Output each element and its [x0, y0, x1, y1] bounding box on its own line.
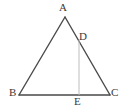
vertex-label-b: B — [9, 87, 16, 98]
segment-ab — [19, 17, 65, 95]
vertex-label-a: A — [59, 2, 67, 13]
segment-ac — [65, 17, 110, 95]
triangle-diagram-svg — [0, 0, 126, 109]
vertex-label-d: D — [79, 31, 87, 42]
vertex-label-c: C — [111, 87, 118, 98]
geometry-figure: A B C D E — [0, 0, 126, 109]
vertex-label-e: E — [74, 96, 81, 107]
